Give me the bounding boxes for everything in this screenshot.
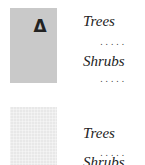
legend-label-trees-2: Trees xyxy=(83,126,115,141)
legend-label-shrubs-2: Shrubs xyxy=(83,155,125,165)
legend-swatch-2 xyxy=(10,107,57,165)
legend-swatch-1: Δ xyxy=(10,8,57,83)
legend-label-trees-1: Trees xyxy=(83,14,115,29)
leader-dots: ..... xyxy=(100,75,138,84)
delta-icon: Δ xyxy=(30,16,50,36)
legend-label-shrubs-1: Shrubs xyxy=(83,54,125,69)
leader-dots: ..... xyxy=(100,38,138,47)
